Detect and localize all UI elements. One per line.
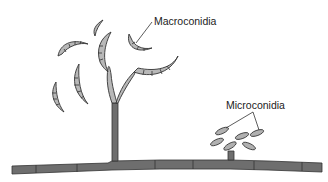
microconidium [210,137,225,148]
macroconidiophore [107,66,135,161]
macroconidia-label-group: Macroconidia [136,15,217,43]
microconidium [250,128,265,138]
microconidia [210,126,265,152]
macroconidium [52,82,64,112]
microconidia-label-group: Microconidia [226,99,285,130]
conidia-diagram: Macroconidia Microconidia [0,0,328,182]
microconidium [223,140,238,152]
macroconidium [134,56,178,76]
macroconidium [58,41,88,56]
macroconidium [94,20,103,36]
macroconidia-label: Macroconidia [154,15,217,27]
microconidiophore [228,151,234,160]
macroconidium [74,64,88,104]
main-hypha [12,160,322,174]
microconidia-label: Microconidia [226,99,285,111]
macroconidium [128,34,152,51]
microconidium [235,131,250,141]
microconidium [242,141,257,152]
